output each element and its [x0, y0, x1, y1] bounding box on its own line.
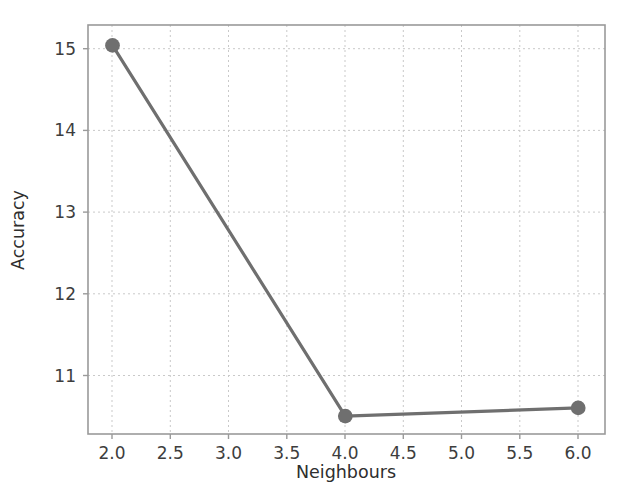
- y-axis-title: Accuracy: [8, 190, 28, 270]
- y-tick-label: 12: [38, 284, 76, 304]
- x-tick-label: 3.5: [273, 443, 300, 463]
- chart-figure: 15 14 13 12 11 2.0 2.5 3.0 3.5 4.0 4.5 5…: [0, 0, 635, 503]
- y-tick-label: 13: [38, 202, 76, 222]
- x-tick-label: 2.0: [98, 443, 125, 463]
- data-point-marker: [338, 409, 353, 424]
- data-point-marker: [571, 401, 586, 416]
- x-tick-label: 2.5: [157, 443, 184, 463]
- x-axis-title: Neighbours: [296, 462, 396, 482]
- x-tick-label: 5.0: [448, 443, 475, 463]
- x-tick-label: 3.0: [215, 443, 242, 463]
- x-tick-label: 4.5: [390, 443, 417, 463]
- plot-canvas: [0, 0, 635, 503]
- y-tick-label: 15: [38, 39, 76, 59]
- y-tick-label: 11: [38, 366, 76, 386]
- x-tick-label: 6.0: [564, 443, 591, 463]
- x-tick-label: 4.0: [331, 443, 358, 463]
- plot-background: [88, 25, 605, 434]
- data-point-marker: [105, 38, 120, 53]
- x-tick-label: 5.5: [506, 443, 533, 463]
- y-tick-label: 14: [38, 120, 76, 140]
